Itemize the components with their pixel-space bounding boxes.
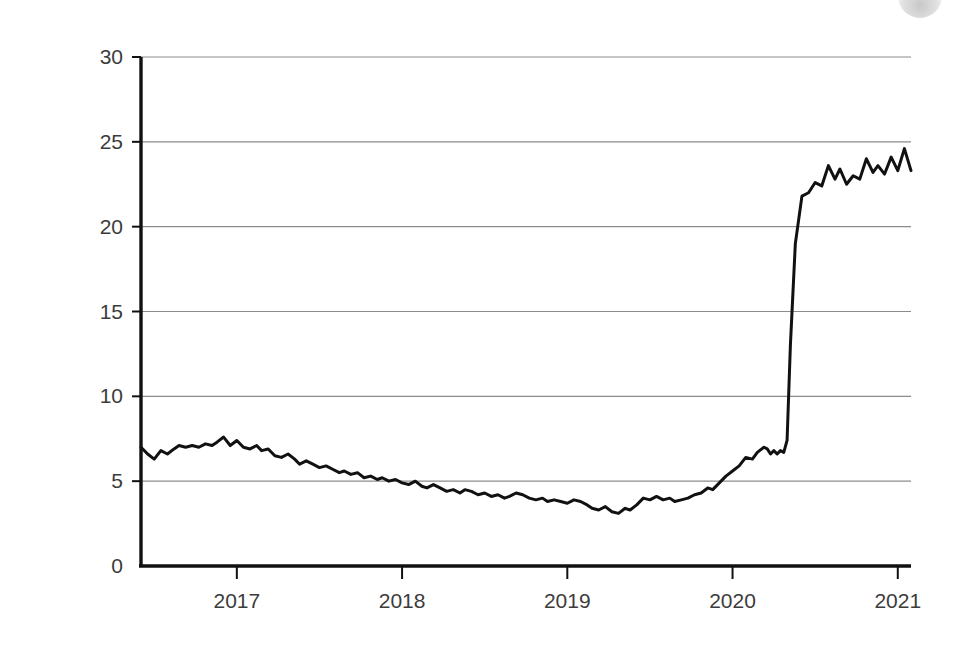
y-tick-label: 10 bbox=[100, 384, 123, 407]
chart-container: 051015202530 20172018201920202021 www.fr… bbox=[0, 0, 965, 654]
x-axis-labels: 20172018201920202021 bbox=[213, 589, 921, 612]
y-tick-label: 0 bbox=[111, 554, 123, 577]
y-tick-label: 30 bbox=[100, 45, 123, 68]
x-tick-label: 2017 bbox=[213, 589, 260, 612]
x-tick-label: 2021 bbox=[874, 589, 921, 612]
x-axis-ticks bbox=[237, 566, 898, 579]
y-tick-label: 5 bbox=[111, 469, 123, 492]
x-tick-label: 2019 bbox=[544, 589, 591, 612]
data-series-line bbox=[141, 149, 911, 514]
y-tick-label: 15 bbox=[100, 300, 123, 323]
x-tick-label: 2020 bbox=[709, 589, 756, 612]
y-tick-label: 25 bbox=[100, 130, 123, 153]
y-axis-labels: 051015202530 bbox=[100, 45, 123, 577]
y-tick-label: 20 bbox=[100, 215, 123, 238]
x-tick-label: 2018 bbox=[379, 589, 426, 612]
line-chart: 051015202530 20172018201920202021 bbox=[0, 0, 965, 654]
